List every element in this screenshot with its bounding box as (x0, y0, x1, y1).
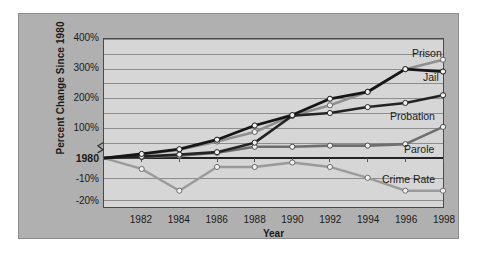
y-axis-tick-labels: 400% 300% 200% 100% 1980 -10% -20% (51, 38, 99, 208)
series-label-probation: Probation (390, 110, 435, 122)
x-tick-1982: 1982 (120, 214, 162, 225)
series-label-crime-rate: Crime Rate (382, 173, 435, 185)
y-tick-neg20: -20% (55, 195, 99, 206)
x-tick-1996: 1996 (385, 214, 427, 225)
series-label-parole: Parole (404, 143, 434, 155)
y-tick-300: 300% (55, 62, 99, 73)
series-probation (104, 93, 446, 160)
y-tick-200: 200% (55, 92, 99, 103)
x-axis-title: Year (103, 228, 444, 239)
x-tick-1990: 1990 (271, 214, 313, 225)
x-tick-1984: 1984 (158, 214, 200, 225)
x-axis-tick-labels: 1982 1984 1986 1988 1990 1992 1994 1996 … (103, 214, 444, 228)
x-tick-1988: 1988 (234, 214, 276, 225)
y-tick-100: 100% (55, 122, 99, 133)
chart-screenshot: Percent Change Since 1980 400% 300% 200%… (0, 0, 477, 253)
series-label-jail: Jail (423, 71, 439, 83)
y-tick-baseline-1980: 1980 (55, 152, 99, 164)
x-tick-1992: 1992 (309, 214, 351, 225)
chart-card: Percent Change Since 1980 400% 300% 200%… (18, 13, 459, 239)
series-label-prison: Prison (412, 47, 442, 59)
y-tick-neg10: -10% (55, 173, 99, 184)
x-tick-1994: 1994 (347, 214, 389, 225)
x-tick-1998: 1998 (423, 214, 465, 225)
x-tick-1986: 1986 (196, 214, 238, 225)
y-tick-400: 400% (55, 32, 99, 43)
